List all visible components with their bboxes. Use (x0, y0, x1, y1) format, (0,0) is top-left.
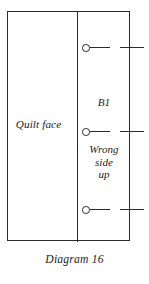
wrong-side-up-label: Wrong side up (78, 143, 130, 181)
piece-b1-label: B1 (78, 96, 130, 109)
diagram-caption: Diagram 16 (0, 253, 149, 266)
seam-tick-icon (120, 47, 144, 48)
pin-marker-middle (82, 125, 144, 139)
seam-tick-icon (120, 209, 144, 210)
wrong-side-up-line-2: side (78, 156, 130, 169)
quilting-diagram: Quilt face B1 Wrong side up Diagram 16 (0, 0, 149, 284)
panel-divider-line (77, 11, 78, 242)
pin-marker-top (82, 41, 144, 55)
pin-marker-bottom (82, 203, 144, 217)
wrong-side-up-line-3: up (78, 168, 130, 181)
pin-stem-line (90, 47, 110, 48)
pin-stem-line (90, 209, 110, 210)
seam-tick-icon (120, 131, 144, 132)
pin-stem-line (90, 131, 110, 132)
pin-circle-icon (82, 128, 90, 136)
wrong-side-up-line-1: Wrong (78, 143, 130, 156)
pin-circle-icon (82, 206, 90, 214)
pin-circle-icon (82, 44, 90, 52)
quilt-face-label: Quilt face (0, 118, 77, 131)
